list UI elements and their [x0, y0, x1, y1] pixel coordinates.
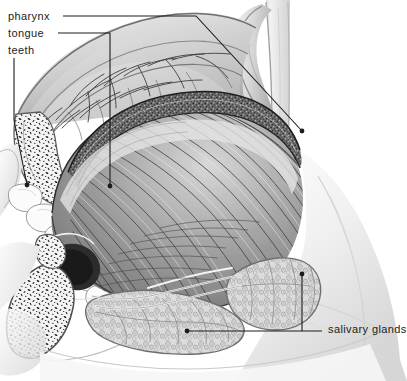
label-pharynx: pharynx: [8, 11, 50, 22]
label-tongue: tongue: [8, 28, 44, 39]
label-teeth: teeth: [8, 45, 34, 56]
label-salivary-glands: salivary glands: [328, 324, 407, 335]
anatomy-figure: pharynx tongue teeth salivary glands: [0, 0, 407, 381]
